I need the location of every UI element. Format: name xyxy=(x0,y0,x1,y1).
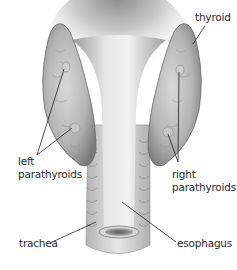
trachea-label: trachea xyxy=(19,237,58,249)
left-parathyroids-label-line1: left xyxy=(18,155,34,167)
right-parathyroids-label-line2: parathyroids xyxy=(172,181,236,193)
esophagus-label: esophagus xyxy=(177,237,232,249)
right-parathyroids-label-line1: right xyxy=(172,168,196,180)
thyroid-label: thyroid xyxy=(195,11,231,23)
left-parathyroids-label-line2: parathyroids xyxy=(18,168,82,180)
thyroid-illustration xyxy=(0,0,237,270)
